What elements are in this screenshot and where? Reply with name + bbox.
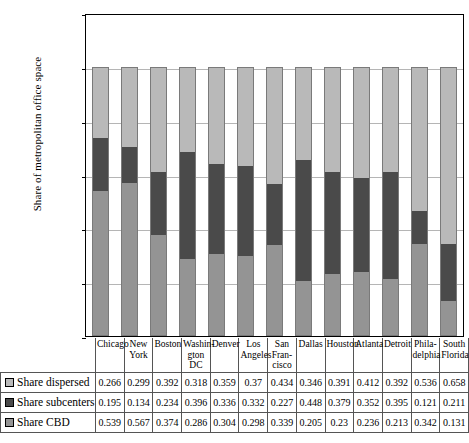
bar-segment <box>440 67 456 244</box>
data-table: ChicagoNewYorkBostonWashin-gton DCDenver… <box>0 338 469 433</box>
plot-area <box>85 14 464 337</box>
bar-slot <box>86 15 115 336</box>
table-cell: 0.299 <box>124 372 153 392</box>
bar-segment <box>353 67 369 178</box>
bar-segment <box>150 67 166 173</box>
bar-segment <box>121 183 137 336</box>
bar-segment <box>92 191 108 336</box>
bar-slot <box>347 15 376 336</box>
table-cell: 0.134 <box>124 392 153 412</box>
bar-segment <box>295 67 311 160</box>
bar-segment <box>266 184 282 245</box>
table-cell: 0.392 <box>382 372 411 392</box>
table-cell: 0.391 <box>325 372 354 392</box>
table-cell: 0.336 <box>210 392 239 412</box>
table-column-header: Houston <box>325 338 354 372</box>
bar-segment <box>179 259 195 336</box>
stacked-bar[interactable] <box>121 67 137 336</box>
table-column-header: LosAngeles <box>239 338 268 372</box>
table-cell: 0.342 <box>411 412 440 432</box>
table-cell: 0.213 <box>382 412 411 432</box>
table-column-header: Boston <box>153 338 182 372</box>
table-cell: 0.658 <box>440 372 469 392</box>
table-cell: 0.379 <box>325 392 354 412</box>
stacked-bar[interactable] <box>295 67 311 336</box>
legend-row-label: Share CBD <box>1 412 96 432</box>
bar-slot <box>434 15 463 336</box>
stacked-bar[interactable] <box>353 67 369 336</box>
table-cell: 0.434 <box>268 372 297 392</box>
bar-segment <box>353 272 369 336</box>
bar-slot <box>144 15 173 336</box>
bar-segment <box>382 172 398 278</box>
bar-slot <box>376 15 405 336</box>
table-cell: 0.318 <box>182 372 211 392</box>
bar-segment <box>295 281 311 336</box>
stacked-bar[interactable] <box>324 67 340 336</box>
bar-segment <box>237 256 253 336</box>
stacked-bar[interactable] <box>382 67 398 336</box>
bar-segment <box>324 274 340 336</box>
bar-segment <box>92 138 108 190</box>
bar-slot <box>173 15 202 336</box>
legend-swatch-icon <box>5 398 14 407</box>
stacked-bar[interactable] <box>440 67 456 336</box>
table-column-header: Chicago <box>96 338 125 372</box>
table-cell: 0.298 <box>239 412 268 432</box>
table-column-header: Phila-delphia <box>411 338 440 372</box>
table-cell: 0.392 <box>153 372 182 392</box>
bar-segment <box>440 301 456 336</box>
table-column-header: SouthFlorida <box>440 338 469 372</box>
bar-segment <box>92 67 108 139</box>
bar-segment <box>411 244 427 336</box>
table-column-header: Washin-gton DC <box>182 338 211 372</box>
bar-segment <box>324 172 340 274</box>
table-cell: 0.195 <box>96 392 125 412</box>
table-cell: 0.286 <box>182 412 211 432</box>
stacked-bar[interactable] <box>179 67 195 336</box>
table-cell: 0.567 <box>124 412 153 432</box>
bar-segment <box>324 67 340 172</box>
legend-label-text: Share CBD <box>17 416 70 428</box>
bar-segment <box>208 164 224 254</box>
table-column-header: Dallas <box>296 338 325 372</box>
bar-slot <box>115 15 144 336</box>
bar-series-container <box>86 15 463 336</box>
bar-segment <box>150 172 166 235</box>
table-cell: 0.346 <box>296 372 325 392</box>
legend-label-text: Share subcenters <box>17 396 95 408</box>
y-axis-title: Share of metropolitan office space <box>31 19 43 249</box>
table-cell: 0.448 <box>296 392 325 412</box>
table-column-header: SanFran-cisco <box>268 338 297 372</box>
stacked-bar[interactable] <box>150 67 166 336</box>
table-cell: 0.227 <box>268 392 297 412</box>
chart-page: Share of metropolitan office space 00.20… <box>0 0 469 443</box>
table-column-header: Detroit <box>382 338 411 372</box>
stacked-bar[interactable] <box>92 67 108 336</box>
bar-segment <box>208 67 224 164</box>
table-cell: 0.359 <box>210 372 239 392</box>
table-cell: 0.332 <box>239 392 268 412</box>
stacked-bar-chart: Share of metropolitan office space 00.20… <box>0 0 469 338</box>
bar-slot <box>289 15 318 336</box>
table-column-header: Denver <box>210 338 239 372</box>
stacked-bar[interactable] <box>208 67 224 336</box>
bar-segment <box>208 254 224 336</box>
legend-swatch-icon <box>5 378 14 387</box>
table-cell: 0.395 <box>382 392 411 412</box>
stacked-bar[interactable] <box>266 67 282 336</box>
table-row: Share CBD0.5390.5670.3740.2860.3040.2980… <box>1 412 469 432</box>
bar-segment <box>353 178 369 273</box>
bar-slot <box>231 15 260 336</box>
bar-segment <box>237 166 253 255</box>
table-cell: 0.23 <box>325 412 354 432</box>
table-cell: 0.339 <box>268 412 297 432</box>
bar-segment <box>266 67 282 184</box>
legend-label-text: Share dispersed <box>17 376 90 388</box>
table-cell: 0.304 <box>210 412 239 432</box>
table-row: Share dispersed0.2660.2990.3920.3180.359… <box>1 372 469 392</box>
bar-segment <box>179 67 195 153</box>
stacked-bar[interactable] <box>411 67 427 336</box>
bar-slot <box>405 15 434 336</box>
stacked-bar[interactable] <box>237 67 253 336</box>
